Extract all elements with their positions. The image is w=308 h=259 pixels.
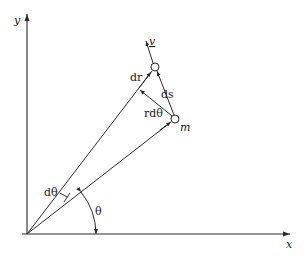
d-theta-label: dθ	[44, 186, 58, 199]
y-axis-label: y	[13, 14, 21, 27]
theta-arc	[81, 192, 96, 234]
d-theta-leader	[60, 193, 67, 197]
particle-m	[171, 115, 179, 123]
radius-line-upper	[27, 71, 152, 234]
x-axis-label: x	[286, 238, 293, 251]
particle-position-next	[151, 63, 159, 71]
polar-kinematics-diagram: y x v dr ds rdθ m dθ θ	[0, 0, 308, 259]
ds-label: ds	[161, 88, 174, 101]
velocity-label: v	[149, 35, 156, 48]
m-position-arrow	[160, 122, 171, 130]
mass-label: m	[180, 121, 190, 134]
dr-label: dr	[130, 71, 143, 84]
theta-label: θ	[95, 205, 102, 218]
r-dtheta-label: rdθ	[144, 107, 163, 120]
